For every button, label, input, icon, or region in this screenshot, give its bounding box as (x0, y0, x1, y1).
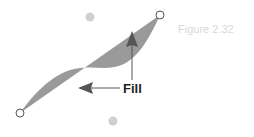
control-point-2[interactable] (109, 117, 118, 126)
figure-caption: Figure 2.32 (178, 23, 234, 35)
end-anchor[interactable] (156, 11, 164, 19)
arrow-to-lower-fill-head (78, 82, 93, 94)
fill-label: Fill (123, 81, 142, 96)
start-anchor[interactable] (16, 109, 24, 117)
control-point-1[interactable] (86, 13, 95, 22)
bezier-fill-diagram: Fill Figure 2.32 (0, 0, 254, 137)
bezier-fill-shape (20, 15, 160, 113)
